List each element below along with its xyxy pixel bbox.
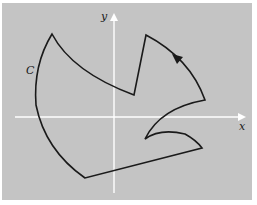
diagram-background	[2, 3, 252, 200]
x-axis-label: x	[239, 120, 246, 133]
y-axis-label: y	[100, 10, 108, 23]
diagram-canvas: y x C	[0, 0, 257, 205]
curve-label: C	[26, 64, 35, 77]
diagram-figure: y x C	[0, 0, 257, 205]
